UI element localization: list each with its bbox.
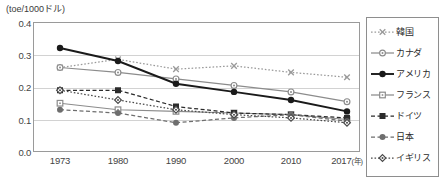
legend-item[interactable]: アメリカ xyxy=(370,63,436,84)
legend-label: 日本 xyxy=(396,130,413,143)
legend-swatch-france xyxy=(370,88,395,102)
legend-swatch-usa xyxy=(370,67,395,81)
legend-item[interactable]: カナダ xyxy=(370,42,436,63)
legend-item[interactable]: フランス xyxy=(370,84,436,105)
legend-item[interactable]: 日本 xyxy=(370,126,436,147)
legend-item[interactable]: イギリス xyxy=(370,147,436,168)
legend-label: イギリス xyxy=(396,151,431,164)
legend-label: アメリカ xyxy=(396,67,431,80)
chart-root: (toe/1000ドル) 0.4 0.3 0.2 0.1 0.0 1973 19… xyxy=(0,0,444,184)
legend-label: 韓国 xyxy=(396,25,413,38)
legend-item[interactable]: 韓国 xyxy=(370,21,436,42)
legend-swatch-germany xyxy=(370,109,395,123)
chart-legend: 韓国 カナダ アメリカ フランス ドイツ 日本 イギリス xyxy=(366,17,439,177)
legend-label: ドイツ xyxy=(396,109,422,122)
legend-label: カナダ xyxy=(396,46,422,59)
legend-swatch-uk xyxy=(370,151,395,165)
legend-swatch-canada xyxy=(370,46,395,60)
legend-swatch-korea xyxy=(370,25,395,39)
legend-label: フランス xyxy=(396,88,431,101)
legend-swatch-japan xyxy=(370,130,395,144)
legend-item[interactable]: ドイツ xyxy=(370,105,436,126)
